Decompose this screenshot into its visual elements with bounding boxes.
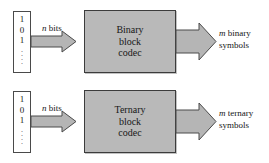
codec-block-line: codec [118,127,141,139]
bit-digit: 0 [20,105,25,116]
codec-block-binary: Binary block codec [84,10,176,73]
input-arrow-binary [31,31,76,52]
bit-digit: 1 [20,94,25,105]
input-bit-column-ternary: 1 0 1 .... [13,91,31,153]
output-line2: symbols [219,120,253,132]
input-arrow-label-ternary: n bits [42,103,62,114]
input-symbol: n [42,23,47,33]
output-symbol: m [219,28,226,38]
input-arrow-label-binary: n bits [42,23,62,34]
codec-block-ternary: Ternary block codec [84,90,176,153]
output-label-binary: m binary symbols [219,28,251,51]
codec-block-line: Binary [116,24,143,36]
output-symbol: m [219,108,226,118]
bit-digit: 0 [20,25,25,36]
bit-digit: 1 [20,35,25,46]
codec-block-line: codec [118,47,141,59]
codec-block-line: Ternary [115,104,146,116]
output-arrow-ternary [176,103,216,140]
vertical-dots-icon: .... [21,127,23,143]
bit-digit: 1 [20,115,25,126]
output-label-ternary: m ternary symbols [219,108,253,131]
codec-block-line: block [119,116,141,128]
output-line1: binary [228,28,251,38]
codec-block-line: block [119,36,141,48]
output-arrow-binary [176,23,216,60]
input-bit-column-binary: 1 0 1 .... [13,11,31,73]
output-line2: symbols [219,40,251,52]
input-unit: bits [49,23,62,33]
bit-digit: 1 [20,14,25,25]
diagram-canvas: 1 0 1 .... Binary block codec n bits m b… [0,0,269,163]
vertical-dots-icon: .... [21,47,23,63]
input-arrow-ternary [31,111,76,132]
input-symbol: n [42,103,47,113]
input-unit: bits [49,103,62,113]
output-line1: ternary [228,108,253,118]
